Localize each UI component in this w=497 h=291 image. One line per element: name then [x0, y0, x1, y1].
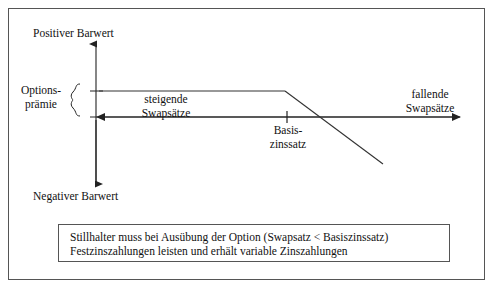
steigende-line-1: steigende	[126, 93, 206, 107]
figure-root: Positiver Barwert Negativer Barwert Opti…	[0, 0, 497, 291]
optionspraemie-brace	[71, 84, 80, 116]
caption-box: Stillhalter muss bei Ausübung der Option…	[58, 224, 450, 262]
axis-tick-label-basiszinssatz: Basis- zinssatz	[256, 124, 320, 151]
fallende-line-1: fallende	[394, 88, 466, 102]
basiszinssatz-line-1: Basis-	[256, 124, 320, 138]
axis-label-negative-barwert: Negativer Barwert	[33, 190, 118, 203]
fallende-line-2: Swapsätze	[394, 102, 466, 116]
steigende-line-2: Swapsätze	[126, 107, 206, 121]
brace-label-line-2: prämie	[16, 98, 66, 112]
brace-label-line-1: Options-	[16, 84, 66, 98]
caption-line-2: Festzinszahlungen leisten und erhält var…	[70, 245, 348, 257]
axis-label-positive-barwert: Positiver Barwert	[33, 27, 114, 40]
axis-label-steigende-swapsaetze: steigende Swapsätze	[126, 93, 206, 120]
caption-line-1: Stillhalter muss bei Ausübung der Option…	[70, 231, 388, 243]
brace-label-optionspraemie: Options- prämie	[16, 84, 66, 111]
basiszinssatz-line-2: zinssatz	[256, 138, 320, 152]
axis-label-fallende-swapsaetze: fallende Swapsätze	[394, 88, 466, 115]
